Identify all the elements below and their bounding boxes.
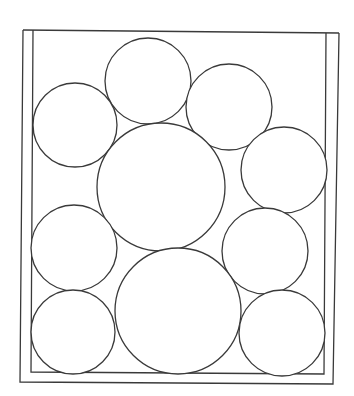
circle-upper-left [33, 83, 117, 167]
container-top-edge [23, 30, 339, 33]
circle-bottom-left [31, 290, 115, 374]
circle-packing-diagram [0, 0, 354, 396]
circle-left-middle [31, 205, 117, 291]
circle-large-bottom [115, 248, 241, 374]
circle-large-center [97, 123, 225, 251]
diagram-canvas [0, 0, 354, 396]
circle-right-upper [241, 127, 327, 213]
circle-top-center [105, 38, 191, 124]
circle-right-middle [222, 208, 308, 294]
circle-bottom-right [239, 290, 325, 376]
packed-circles [31, 38, 327, 376]
